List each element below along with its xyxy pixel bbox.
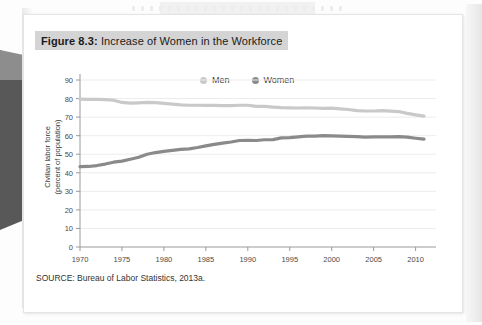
y-tick-label: 20 bbox=[65, 206, 73, 215]
y-tick-label: 10 bbox=[65, 224, 73, 233]
y-tick-label: 70 bbox=[65, 113, 73, 122]
series-line-men bbox=[80, 99, 424, 116]
screenshot-root: Figure 8.3: Increase of Women in the Wor… bbox=[0, 0, 482, 325]
x-tick-label: 2000 bbox=[323, 255, 340, 264]
x-tick-label: 1970 bbox=[72, 255, 89, 264]
x-tick-label: 1980 bbox=[156, 255, 173, 264]
plot-area-wrapper: Civilian labor force (percent of populat… bbox=[24, 15, 462, 312]
x-tick-label: 1985 bbox=[198, 255, 215, 264]
y-tick-label: 40 bbox=[65, 169, 73, 178]
x-tick-label: 2010 bbox=[407, 255, 424, 264]
source-note: SOURCE: Bureau of Labor Statistics, 2013… bbox=[36, 273, 205, 283]
page-right-edge bbox=[466, 4, 482, 322]
x-tick-label: 1990 bbox=[239, 255, 256, 264]
page-top-dotted-rule bbox=[132, 6, 342, 11]
y-tick-label: 30 bbox=[65, 187, 73, 196]
x-tick-label: 2005 bbox=[365, 255, 382, 264]
series-line-women bbox=[80, 136, 424, 167]
y-tick-label: 50 bbox=[65, 150, 73, 159]
figure-card: Figure 8.3: Increase of Women in the Wor… bbox=[23, 14, 463, 313]
x-tick-label: 1995 bbox=[281, 255, 298, 264]
y-tick-label: 0 bbox=[69, 243, 73, 252]
y-tick-label: 60 bbox=[65, 132, 73, 141]
y-tick-label: 90 bbox=[65, 76, 73, 85]
y-tick-label: 80 bbox=[65, 95, 73, 104]
x-tick-label: 1975 bbox=[114, 255, 131, 264]
line-chart: 0102030405060708090197019751980198519901… bbox=[24, 15, 462, 312]
